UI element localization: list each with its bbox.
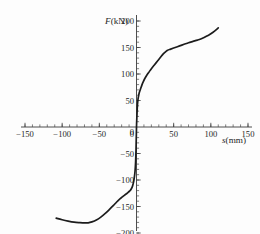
x-axis-tick-labels: −150−100−50050100150 <box>16 129 254 139</box>
load-slip-chart: −150−100−50050100150 −200−150−100−500501… <box>0 0 260 234</box>
x-tick-label: 50 <box>169 129 178 139</box>
x-tick-label: −50 <box>93 129 106 139</box>
load-slip-curve <box>56 28 218 223</box>
y-tick-label: −100 <box>116 175 134 185</box>
y-axis-title: F(kN) <box>104 16 128 26</box>
x-tick-label: 100 <box>204 129 217 139</box>
chart-figure: −150−100−50050100150 −200−150−100−500501… <box>0 0 260 234</box>
y-axis-tick-labels: −200−150−100−50050100150200 <box>116 16 134 234</box>
y-tick-label: −150 <box>116 202 134 212</box>
x-tick-label: −100 <box>53 129 71 139</box>
x-tick-label: −150 <box>16 129 34 139</box>
y-tick-label: −200 <box>116 228 134 234</box>
y-tick-label: 100 <box>121 69 134 79</box>
y-tick-label: 0 <box>130 127 134 137</box>
y-tick-label: 50 <box>125 96 134 106</box>
y-tick-label: 150 <box>121 43 134 53</box>
y-tick-label: −50 <box>121 149 134 159</box>
x-axis-title: s(mm) <box>222 135 246 145</box>
